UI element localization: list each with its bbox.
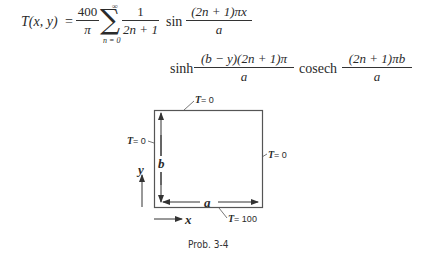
bottom-boundary-label: T= 100: [228, 213, 257, 224]
temperature-value: = 0: [133, 136, 146, 146]
plate-rectangle: [155, 111, 263, 208]
y-axis-label: y: [138, 162, 144, 178]
left-boundary-label: T= 0: [127, 135, 146, 146]
top-boundary-label: T= 0: [195, 94, 214, 105]
width-dimension-label: a: [204, 195, 211, 211]
height-dimension-label: b: [157, 156, 166, 172]
figure-caption: Prob. 3-4: [188, 239, 228, 250]
right-boundary-label: T= 0: [268, 149, 287, 160]
x-axis-label: x: [185, 212, 192, 228]
temperature-value: = 0: [201, 95, 214, 105]
temperature-value: = 0: [274, 150, 287, 160]
temperature-value: = 100: [234, 214, 257, 224]
diagram-lines: [0, 0, 429, 257]
